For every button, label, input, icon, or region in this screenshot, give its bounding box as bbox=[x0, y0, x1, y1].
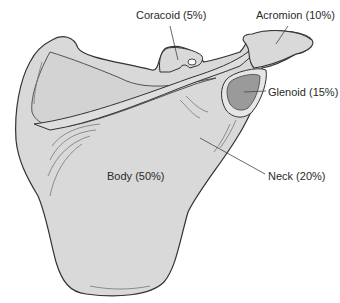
scapula-illustration bbox=[0, 0, 340, 303]
label-body: Body (50%) bbox=[107, 170, 164, 182]
label-acromion: Acromion (10%) bbox=[256, 9, 335, 21]
label-coracoid: Coracoid (5%) bbox=[136, 9, 206, 21]
label-glenoid: Glenoid (15%) bbox=[268, 86, 338, 98]
label-neck: Neck (20%) bbox=[268, 170, 325, 182]
